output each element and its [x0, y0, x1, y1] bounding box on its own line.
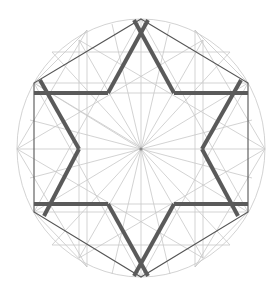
center-point — [139, 147, 142, 150]
hexagram-construction-diagram — [0, 0, 279, 290]
